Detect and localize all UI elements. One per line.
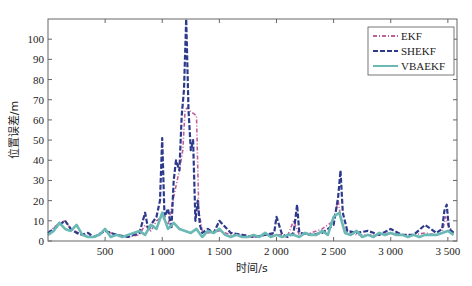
y-axis-label: 位置误差/m [7,101,21,159]
x-tick-label: 3 500 [435,245,460,257]
legend: EKF SHEKF VBAEKF [368,27,454,75]
x-tick-label: 3 000 [378,245,403,257]
line-chart: 0102030405060708090100 5001 0001 5002 00… [0,0,472,286]
y-tick-label: 90 [33,53,45,65]
y-tick-label: 60 [33,114,45,126]
y-tick-label: 30 [33,174,45,186]
x-tick-label: 2 000 [264,245,289,257]
y-tick-label: 100 [28,33,45,45]
svg-text:SHEKF: SHEKF [401,45,436,57]
x-axis-label: 时间/s [236,262,268,275]
svg-text:EKF: EKF [401,30,422,42]
x-tick-label: 1 000 [150,245,175,257]
x-tick-label: 2 500 [321,245,346,257]
x-tick-label: 1 500 [207,245,232,257]
svg-text:VBAEKF: VBAEKF [401,60,445,72]
y-tick-label: 10 [33,215,45,227]
y-tick-label: 80 [33,74,45,86]
y-tick-label: 70 [33,94,45,106]
y-tick-label: 20 [33,195,45,207]
y-tick-label: 40 [33,154,45,166]
y-tick-label: 50 [33,134,45,146]
x-tick-label: 500 [97,245,114,257]
y-tick-label: 0 [39,235,45,247]
